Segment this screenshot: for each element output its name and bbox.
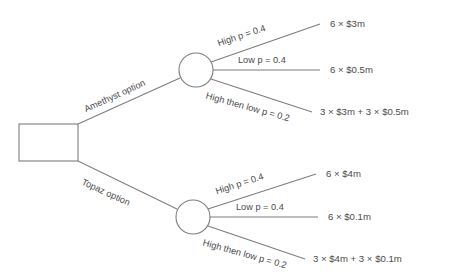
- label-topaz-option: Topaz option: [80, 177, 132, 208]
- label-amethyst-high-probability: High p = 0.4: [216, 23, 266, 48]
- label-amethyst-high-then-low-probability: High then low p = 0.2: [205, 91, 291, 124]
- payoff-topaz-low: 6 × $0.1m: [328, 211, 371, 222]
- payoff-amethyst-low: 6 × $0.5m: [330, 64, 373, 75]
- payoff-amethyst-high: 6 × $3m: [330, 18, 365, 29]
- decision-tree-diagram: Amethyst option High p = 0.4 6 × $3m Low…: [0, 0, 457, 278]
- label-topaz-high-probability: High p = 0.4: [214, 171, 264, 196]
- payoff-amethyst-high-then-low: 3 × $3m + 3 × $0.5m: [320, 106, 409, 117]
- decision-tree-canvas: Amethyst option High p = 0.4 6 × $3m Low…: [0, 0, 457, 278]
- chance-node-amethyst[interactable]: [179, 53, 213, 87]
- payoff-topaz-high-then-low: 3 × $4m + 3 × $0.1m: [313, 253, 402, 264]
- payoff-topaz-high: 6 × $4m: [326, 168, 361, 179]
- label-amethyst-low-probability: Low p = 0.4: [238, 55, 286, 65]
- label-amethyst-option: Amethyst option: [83, 78, 147, 114]
- chance-node-topaz[interactable]: [176, 200, 210, 234]
- label-topaz-low-probability: Low p = 0.4: [236, 202, 284, 212]
- decision-node-square[interactable]: [19, 124, 78, 161]
- label-topaz-high-then-low-probability: High then low p = 0.2: [202, 238, 288, 271]
